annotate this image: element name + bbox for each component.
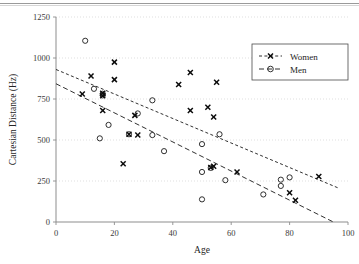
legend-label-women[interactable]: Women — [290, 52, 318, 62]
data-point-men — [223, 178, 228, 183]
y-tick-label-1250: 1250 — [33, 12, 50, 22]
figure-container: 025050075010001250020406080100 AgeCartes… — [0, 0, 359, 264]
data-point-men — [278, 177, 283, 182]
y-tick-label-750: 750 — [37, 94, 50, 104]
page-top-rule — [0, 3, 359, 4]
data-point-women — [214, 80, 219, 85]
x-tick-label-40: 40 — [169, 228, 178, 238]
data-point-women — [80, 92, 85, 97]
data-point-women — [205, 105, 210, 110]
y-axis-title: Cartesian Distance (Hz) — [8, 74, 19, 165]
legend-label-men[interactable]: Men — [290, 65, 307, 75]
x-tick-label-80: 80 — [285, 228, 294, 238]
trendline-men — [56, 84, 333, 222]
data-point-women — [188, 70, 193, 75]
page-top-rule-secondary — [0, 5, 359, 6]
data-point-women — [188, 108, 193, 113]
data-point-men — [161, 149, 166, 154]
data-point-men — [106, 122, 111, 127]
data-point-women — [112, 60, 117, 65]
data-point-women — [135, 133, 140, 138]
data-point-men — [83, 38, 88, 43]
data-point-men — [199, 169, 204, 174]
data-point-women — [121, 161, 126, 166]
y-tick-label-500: 500 — [37, 135, 50, 145]
data-point-men — [261, 192, 266, 197]
data-point-women — [211, 115, 216, 120]
trendline-women — [56, 69, 339, 188]
data-point-women — [127, 132, 132, 137]
data-point-men — [199, 142, 204, 147]
data-point-women — [293, 198, 298, 203]
data-point-men — [97, 136, 102, 141]
data-point-men — [217, 132, 222, 137]
scatter-plot: 025050075010001250020406080100 AgeCartes… — [0, 0, 359, 264]
y-tick-label-250: 250 — [37, 176, 50, 186]
data-point-men — [287, 175, 292, 180]
data-point-men — [91, 86, 96, 91]
chart-legend[interactable]: WomenMen — [252, 44, 348, 80]
x-tick-label-100: 100 — [342, 228, 355, 238]
x-tick-label-20: 20 — [110, 228, 119, 238]
y-tick-label-1000: 1000 — [33, 53, 50, 63]
data-point-women — [287, 190, 292, 195]
x-tick-label-60: 60 — [227, 228, 236, 238]
data-point-women — [100, 108, 105, 113]
data-point-men — [278, 183, 283, 188]
y-tick-label-0: 0 — [46, 217, 50, 227]
data-point-men — [150, 132, 155, 137]
data-point-women — [316, 174, 321, 179]
data-point-women — [112, 77, 117, 82]
x-tick-label-0: 0 — [54, 228, 58, 238]
x-axis-title: Age — [194, 245, 210, 255]
legend-box[interactable] — [252, 44, 348, 80]
data-point-men — [150, 98, 155, 103]
data-point-women — [176, 82, 181, 87]
data-point-men — [199, 197, 204, 202]
data-point-women — [89, 74, 94, 79]
